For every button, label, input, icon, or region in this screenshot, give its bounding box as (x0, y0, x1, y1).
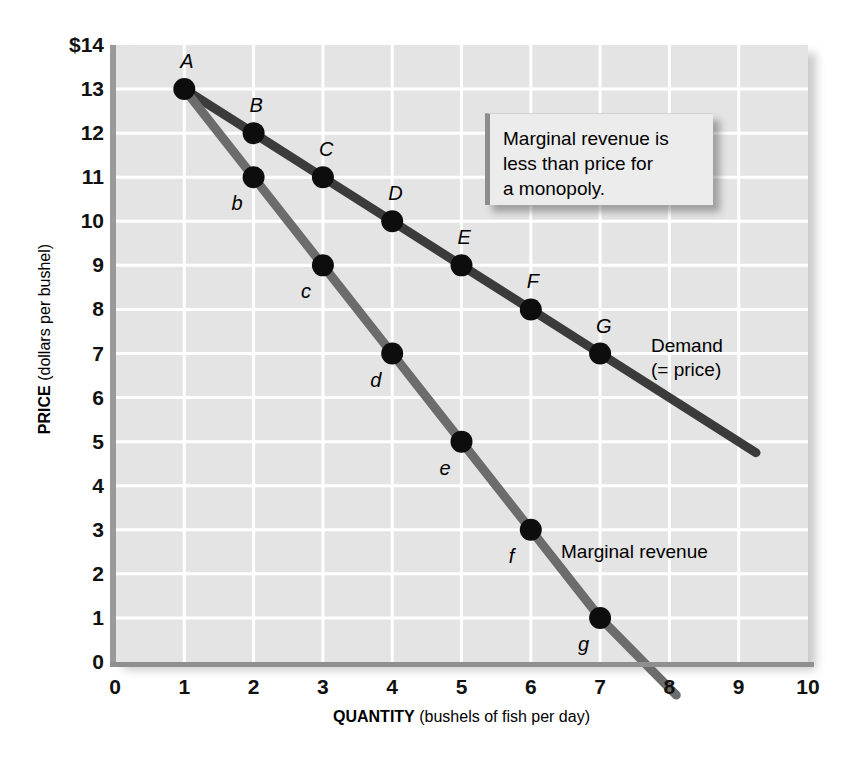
y-axis-spine (110, 45, 116, 662)
point-label-A: A (180, 51, 193, 71)
callout-line-2: less than price for (503, 151, 703, 176)
y-tick-12: 12 (44, 122, 104, 143)
x-axis-title-rest: (bushels of fish per day) (415, 708, 590, 725)
point-label-f: f (509, 546, 515, 566)
y-tick-0: 0 (44, 651, 104, 672)
point-label-G: G (596, 316, 612, 336)
y-tick-13: 13 (44, 78, 104, 99)
x-tick-10: 10 (788, 676, 828, 697)
marginal-revenue-curve-label: Marginal revenue (561, 540, 708, 564)
y-tick-3: 3 (44, 519, 104, 540)
y-tick-1: 1 (44, 607, 104, 628)
monopoly-demand-marginal-revenue-chart: $14131211109876543210 012345678910 PRICE… (0, 0, 864, 759)
demand-curve-label-line-2: (= price) (651, 358, 723, 382)
y-axis-title-rest: (dollars per bushel) (36, 244, 53, 385)
marginal-revenue-curve-label-line-1: Marginal revenue (561, 540, 708, 564)
x-tick-2: 2 (234, 676, 274, 697)
x-tick-3: 3 (303, 676, 343, 697)
point-label-E: E (458, 227, 471, 247)
point-label-B: B (250, 95, 263, 115)
y-axis-title-bold: PRICE (36, 385, 53, 434)
callout-line-3: a monopoly. (503, 176, 703, 201)
x-tick-4: 4 (372, 676, 412, 697)
point-label-g: g (578, 634, 589, 654)
x-tick-8: 8 (649, 676, 689, 697)
y-tick-2: 2 (44, 563, 104, 584)
x-axis-title-bold: QUANTITY (333, 708, 415, 725)
x-tick-7: 7 (580, 676, 620, 697)
y-tick-11: 11 (44, 166, 104, 187)
point-label-b: b (232, 193, 243, 213)
point-label-D: D (388, 183, 402, 203)
y-axis-title: PRICE (dollars per bushel) (36, 189, 54, 489)
callout-line-1: Marginal revenue is (503, 126, 703, 151)
x-tick-1: 1 (164, 676, 204, 697)
demand-curve-label-line-1: Demand (651, 334, 723, 358)
x-tick-9: 9 (719, 676, 759, 697)
x-axis-title: QUANTITY (bushels of fish per day) (115, 708, 808, 726)
x-tick-5: 5 (442, 676, 482, 697)
point-label-c: c (301, 281, 311, 301)
point-label-e: e (440, 458, 451, 478)
callout-annotation: Marginal revenue is less than price for … (485, 113, 713, 205)
y-tick-14: $14 (44, 34, 104, 55)
point-label-C: C (319, 139, 333, 159)
x-tick-6: 6 (511, 676, 551, 697)
demand-curve-label: Demand (= price) (651, 334, 723, 382)
point-label-d: d (370, 370, 381, 390)
x-tick-0: 0 (95, 676, 135, 697)
point-label-F: F (527, 271, 539, 291)
x-axis-spine (110, 662, 814, 667)
